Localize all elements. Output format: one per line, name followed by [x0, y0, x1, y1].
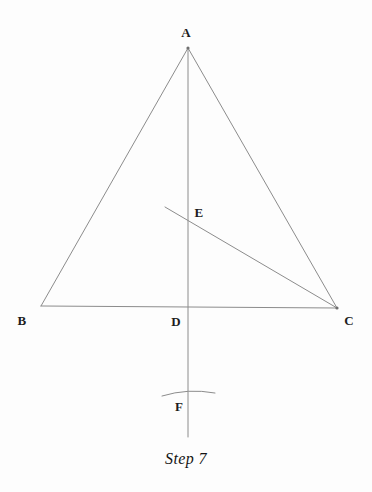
segment-ab: [41, 48, 188, 306]
vertex-dot-c: [335, 306, 338, 309]
point-label-e: E: [195, 205, 204, 220]
point-label-a: A: [181, 25, 191, 40]
point-label-f: F: [175, 399, 183, 414]
vertex-dot-a: [186, 46, 189, 49]
segment-bc: [41, 306, 337, 308]
geometry-diagram: A B C D E F: [0, 0, 372, 492]
point-label-c: C: [344, 313, 354, 328]
point-label-d: D: [171, 314, 181, 329]
segment-ac: [188, 48, 337, 308]
point-label-b: B: [18, 313, 27, 328]
figure-caption: Step 7: [0, 450, 372, 468]
segment-ec: [165, 207, 337, 308]
